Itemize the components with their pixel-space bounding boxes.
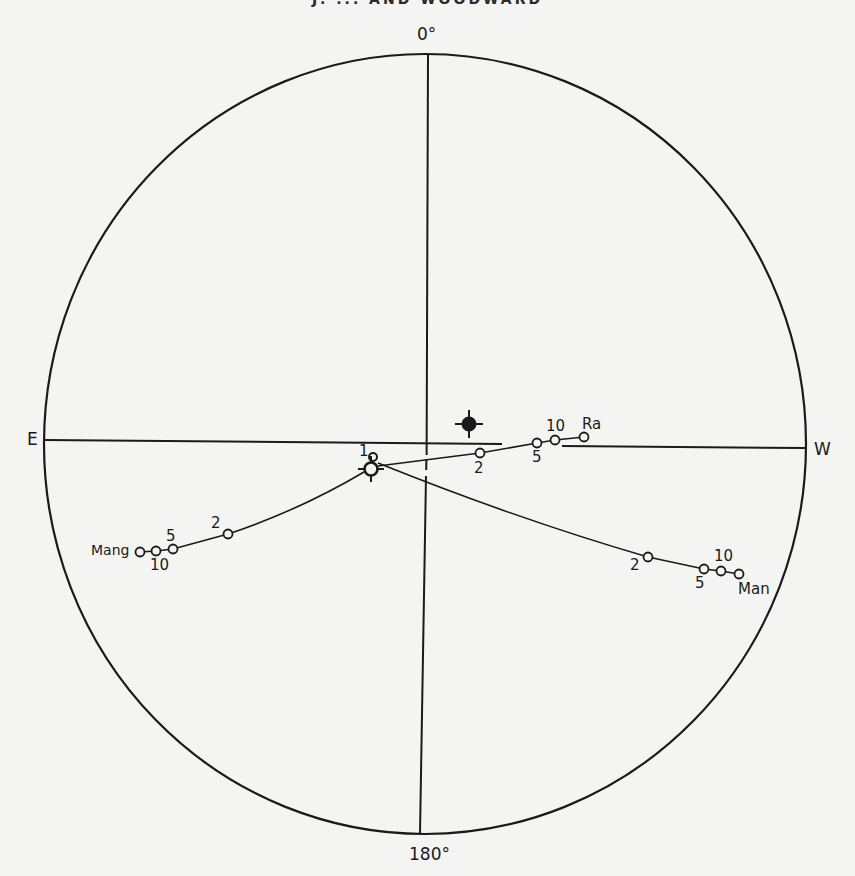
label-ra-10: 10 bbox=[546, 419, 565, 434]
label-man-2: 2 bbox=[630, 558, 640, 573]
vertical-axis bbox=[427, 54, 428, 455]
label-mang-name: Mang bbox=[91, 543, 129, 557]
vertical-axis-lower bbox=[420, 476, 426, 834]
label-man-5: 5 bbox=[695, 576, 705, 591]
label-mang-10: 10 bbox=[150, 558, 169, 573]
horizontal-axis-right bbox=[562, 446, 806, 448]
label-mang-2: 2 bbox=[211, 516, 221, 531]
label-0-degrees: 0° bbox=[417, 26, 436, 43]
horizontal-axis-left bbox=[45, 440, 502, 444]
label-ra-2: 2 bbox=[474, 461, 484, 476]
label-start-1: 1 bbox=[359, 444, 369, 459]
path-man bbox=[378, 463, 739, 574]
stereonet-plot bbox=[0, 0, 855, 876]
stereonet-figure: J. ... AND WOODWARD bbox=[0, 0, 855, 876]
label-180-degrees: 180° bbox=[409, 846, 450, 863]
filled-pole-marker bbox=[455, 410, 483, 438]
label-ra-5: 5 bbox=[532, 450, 542, 465]
label-west: W bbox=[814, 441, 831, 458]
label-east: E bbox=[27, 431, 38, 448]
label-mang-5: 5 bbox=[166, 529, 176, 544]
label-man-10: 10 bbox=[714, 549, 733, 564]
mang-points bbox=[136, 530, 233, 557]
label-man-name: Man bbox=[738, 582, 770, 597]
label-ra-name: Ra bbox=[582, 417, 601, 432]
